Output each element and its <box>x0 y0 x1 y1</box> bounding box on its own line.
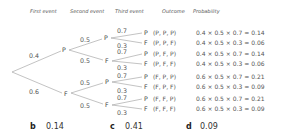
probability-3: 0.4 × 0.5 × 0.7 = 0.14 <box>196 51 265 57</box>
probability-2: 0.4 × 0.5 × 0.3 = 0.06 <box>196 40 265 46</box>
outcome-1: (P, P, P) <box>153 30 176 36</box>
node-second-1: P <box>104 35 108 41</box>
outcome-3: (P, F, P) <box>153 51 176 57</box>
node-third-6: F <box>144 84 148 90</box>
probability-6: 0.6 × 0.5 × 0.3 = 0.09 <box>196 84 265 90</box>
probability-1: 0.4 × 0.5 × 0.7 = 0.14 <box>196 30 265 36</box>
outcome-7: (F, F, P) <box>153 96 176 102</box>
branch-prob-first-f: 0.6 <box>29 89 39 95</box>
outcome-8: (F, F, F) <box>153 106 176 112</box>
node-third-8: F <box>144 106 148 112</box>
branch-prob-third-3: 0.7 <box>117 49 127 55</box>
answer-d-letter: d <box>186 123 192 131</box>
probability-4: 0.4 × 0.5 × 0.3 = 0.06 <box>196 61 265 67</box>
tree-diagram-lines <box>0 0 289 138</box>
answer-b-letter: b <box>30 123 36 131</box>
answer-c-value: 0.41 <box>125 123 143 131</box>
branch-prob-third-4: 0.3 <box>117 65 127 71</box>
branch-prob-first-p: 0.4 <box>29 53 39 59</box>
probability-5: 0.6 × 0.5 × 0.7 = 0.21 <box>196 74 265 80</box>
node-third-2: F <box>144 40 148 46</box>
outcome-4: (P, F, F) <box>153 61 176 67</box>
answer-c-letter: c <box>110 123 115 131</box>
branch-prob-second-2: 0.5 <box>80 58 90 64</box>
node-second-2: F <box>105 58 109 64</box>
outcome-5: (F, P, P) <box>153 74 176 80</box>
branch-prob-third-8: 0.3 <box>117 110 127 116</box>
probability-7: 0.6 × 0.5 × 0.7 = 0.21 <box>196 96 265 102</box>
branch-prob-second-4: 0.5 <box>80 103 90 109</box>
node-third-5: P <box>144 74 148 80</box>
outcome-2: (P, P, F) <box>153 40 176 46</box>
node-second-4: F <box>105 102 109 108</box>
node-second-3: P <box>105 79 109 85</box>
branch-prob-second-3: 0.5 <box>80 80 90 86</box>
answer-b-value: 0.14 <box>46 123 64 131</box>
branch-prob-third-1: 0.7 <box>117 28 127 34</box>
node-first-f: F <box>64 91 68 97</box>
answer-d-value: 0.09 <box>200 123 218 131</box>
node-third-7: P <box>144 96 148 102</box>
node-third-3: P <box>144 51 148 57</box>
branch-prob-third-7: 0.7 <box>117 95 127 101</box>
node-third-4: F <box>144 61 148 67</box>
node-first-p: P <box>62 47 66 53</box>
node-third-1: P <box>144 30 148 36</box>
branch-prob-second-1: 0.5 <box>80 37 90 43</box>
outcome-6: (F, P, F) <box>153 84 176 90</box>
probability-8: 0.6 × 0.5 × 0.3 = 0.09 <box>196 106 265 112</box>
branch-prob-third-5: 0.7 <box>117 73 127 79</box>
